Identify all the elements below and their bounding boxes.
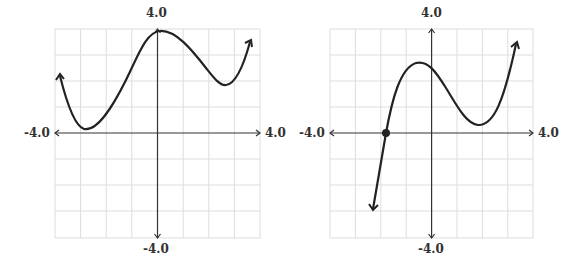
x-min-label-right: -4.0 (299, 126, 325, 140)
curve-right (373, 44, 516, 209)
x-intercept-point (382, 129, 390, 137)
graph-right-plot (0, 0, 578, 269)
axes-right (330, 29, 533, 238)
y-max-label-right: 4.0 (421, 6, 442, 20)
x-max-label-right: 4.0 (538, 126, 559, 140)
y-min-label-right: -4.0 (418, 242, 444, 256)
